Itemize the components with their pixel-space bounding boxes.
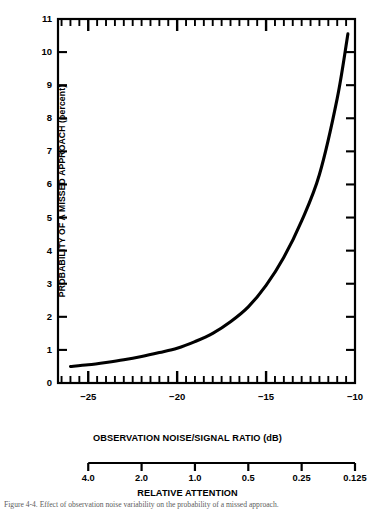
figure-container: PROBABILITY OF A MISSED APPROACH (percen… bbox=[0, 0, 375, 509]
secondary-tick-label: 0.125 bbox=[333, 474, 375, 483]
y-tick-label: 6 bbox=[30, 179, 52, 189]
y-axis-title: PROBABILITY OF A MISSED APPROACH (percen… bbox=[57, 41, 67, 341]
x-axis-top-minor-ticks bbox=[62, 19, 347, 31]
secondary-tick-label: 0.25 bbox=[280, 474, 324, 483]
y-tick-label: 0 bbox=[30, 378, 52, 388]
y-tick-label: 2 bbox=[30, 312, 52, 322]
figure-caption: Figure 4-4. Effect of observation noise … bbox=[4, 500, 372, 509]
secondary-tick-label: 1.0 bbox=[173, 474, 217, 483]
secondary-tick-label: 2.0 bbox=[120, 474, 164, 483]
y-tick-label: 10 bbox=[30, 47, 52, 57]
y-tick-label: 5 bbox=[30, 213, 52, 223]
x-tick-label: −10 bbox=[335, 392, 375, 402]
secondary-axis-title: RELATIVE ATTENTION bbox=[0, 488, 375, 498]
y-tick-label: 11 bbox=[30, 14, 52, 24]
secondary-tick-label: 4.0 bbox=[66, 474, 110, 483]
x-axis-title: OBSERVATION NOISE/SIGNAL RATIO (dB) bbox=[0, 433, 375, 443]
secondary-axis-scale bbox=[88, 463, 355, 471]
y-axis-right-ticks bbox=[346, 52, 355, 350]
y-tick-label: 7 bbox=[30, 146, 52, 156]
x-tick-label: −20 bbox=[157, 392, 197, 402]
y-tick-label: 4 bbox=[30, 246, 52, 256]
y-tick-label: 8 bbox=[30, 113, 52, 123]
data-series-line bbox=[70, 34, 347, 367]
y-tick-label: 1 bbox=[30, 345, 52, 355]
y-tick-label: 3 bbox=[30, 279, 52, 289]
secondary-tick-label: 0.5 bbox=[226, 474, 270, 483]
x-tick-label: −25 bbox=[68, 392, 108, 402]
x-axis-minor-ticks bbox=[62, 371, 347, 383]
y-tick-label: 9 bbox=[30, 80, 52, 90]
x-tick-label: −15 bbox=[246, 392, 286, 402]
